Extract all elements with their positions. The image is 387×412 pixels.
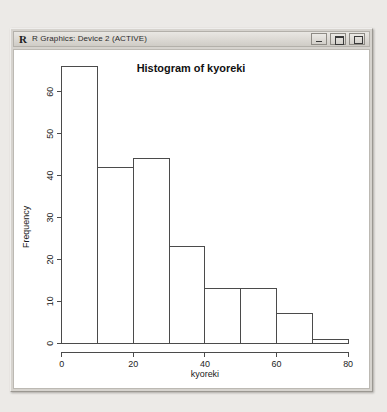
- x-axis-tick-label: 80: [343, 359, 353, 369]
- y-axis-tick-label: 60: [45, 87, 55, 97]
- histogram-chart: Histogram of kyoreki 0102030405060 02040…: [14, 50, 369, 388]
- window-controls: [311, 33, 367, 45]
- x-axis-title: kyoreki: [191, 369, 219, 379]
- histogram-bars: [62, 67, 348, 344]
- y-axis: 0102030405060: [45, 87, 62, 346]
- x-axis-tick-label: 20: [128, 359, 138, 369]
- y-axis-tick-label: 10: [45, 296, 55, 306]
- histogram-bar: [133, 159, 169, 343]
- x-axis-tick-label: 0: [59, 359, 64, 369]
- chart-title: Histogram of kyoreki: [137, 62, 246, 74]
- y-axis-tick-label: 20: [45, 254, 55, 264]
- window-title-text: R Graphics: Device 2 (ACTIVE): [32, 34, 311, 44]
- x-axis-tick-label: 40: [200, 359, 210, 369]
- histogram-bar: [205, 289, 241, 343]
- x-axis: 020406080: [59, 352, 353, 369]
- y-axis-tick-label: 50: [45, 129, 55, 139]
- plot-canvas: Histogram of kyoreki 0102030405060 02040…: [13, 49, 370, 389]
- histogram-bar: [62, 67, 98, 344]
- y-axis-tick-label: 30: [45, 213, 55, 223]
- r-graphics-window: R R Graphics: Device 2 (ACTIVE) Histogra…: [10, 28, 373, 392]
- histogram-bar: [277, 314, 313, 343]
- minimize-icon[interactable]: [311, 33, 327, 45]
- y-axis-tick-label: 0: [45, 341, 55, 346]
- histogram-bar: [312, 339, 348, 343]
- r-logo-icon: R: [17, 33, 29, 45]
- histogram-bar: [169, 247, 205, 343]
- maximize-icon[interactable]: [330, 33, 346, 45]
- y-axis-tick-label: 40: [45, 171, 55, 181]
- window-title-bar[interactable]: R R Graphics: Device 2 (ACTIVE): [13, 31, 370, 47]
- histogram-bar: [98, 167, 134, 343]
- close-icon[interactable]: [349, 33, 365, 45]
- histogram-bar: [241, 289, 277, 343]
- y-axis-title: Frequency: [21, 205, 31, 248]
- x-axis-tick-label: 60: [272, 359, 282, 369]
